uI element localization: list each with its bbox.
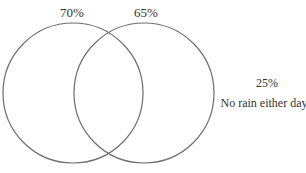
outside-caption-label: No rain either day bbox=[221, 96, 306, 110]
outside-value-label: 25% bbox=[256, 76, 278, 90]
venn-diagram: 70% 65% 25% No rain either day bbox=[0, 0, 306, 173]
left-set-label: 70% bbox=[60, 5, 84, 20]
right-set-label: 65% bbox=[134, 5, 158, 20]
venn-circle-left bbox=[3, 23, 143, 163]
venn-circle-right bbox=[74, 23, 214, 163]
